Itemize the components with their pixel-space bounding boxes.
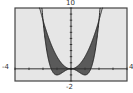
y-max-label: 10: [66, 0, 75, 7]
x-max-label: 4: [129, 64, 133, 71]
graph-plot: [0, 0, 133, 93]
x-min-label: -4: [2, 64, 9, 71]
y-min-label: -2: [66, 84, 73, 91]
